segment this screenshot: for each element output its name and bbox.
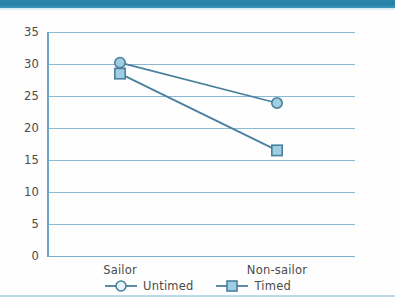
legend-label-untimed: Untimed bbox=[143, 279, 193, 293]
data-point-untimed-sailor[interactable] bbox=[115, 58, 125, 68]
top-decorative-band bbox=[0, 0, 395, 8]
legend-entry-untimed[interactable]: Untimed bbox=[104, 279, 193, 293]
legend-label-timed: Timed bbox=[254, 279, 290, 293]
data-point-timed-non-sailor[interactable] bbox=[272, 145, 282, 155]
data-point-untimed-non-sailor[interactable] bbox=[272, 98, 282, 108]
series-line-untimed bbox=[120, 63, 277, 103]
circle-marker-icon bbox=[104, 279, 138, 293]
data-point-timed-sailor[interactable] bbox=[115, 68, 125, 78]
legend-entry-timed[interactable]: Timed bbox=[215, 279, 290, 293]
bottom-decorative-rule bbox=[0, 295, 395, 297]
square-marker-icon bbox=[215, 279, 249, 293]
series-line-timed bbox=[120, 74, 277, 151]
series-layer bbox=[0, 11, 395, 295]
chart-legend: Untimed Timed bbox=[0, 279, 395, 293]
line-chart-figure: 35 30 25 20 15 10 5 0 Sailor Non-sailor … bbox=[0, 11, 395, 295]
